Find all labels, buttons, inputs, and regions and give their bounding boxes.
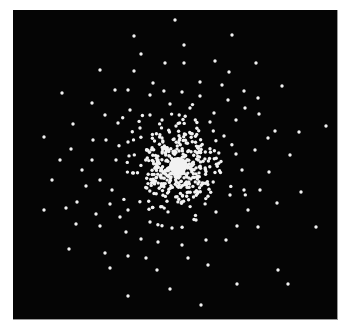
point — [152, 148, 155, 151]
point — [145, 177, 148, 180]
point — [235, 224, 238, 227]
point — [198, 94, 201, 97]
point — [151, 206, 154, 209]
point — [188, 205, 191, 208]
point — [151, 81, 154, 84]
point — [170, 226, 173, 229]
point — [191, 185, 194, 188]
point — [153, 139, 156, 142]
point — [58, 158, 61, 161]
point — [187, 176, 190, 179]
point — [180, 200, 183, 203]
point — [212, 180, 215, 183]
point — [173, 18, 176, 21]
point — [138, 126, 141, 129]
point — [163, 177, 166, 180]
point — [209, 151, 212, 154]
point — [181, 194, 184, 197]
point — [186, 256, 189, 259]
point — [148, 189, 151, 192]
point — [191, 103, 194, 106]
point — [126, 254, 129, 257]
point — [198, 80, 201, 83]
point — [185, 141, 188, 144]
point — [204, 197, 207, 200]
point — [147, 208, 150, 211]
point — [75, 200, 78, 203]
point — [74, 222, 77, 225]
point — [183, 122, 186, 125]
point — [155, 176, 158, 179]
point — [156, 155, 159, 158]
point — [206, 263, 209, 266]
point — [212, 129, 215, 132]
point — [178, 139, 181, 142]
point — [230, 33, 233, 36]
point — [116, 121, 119, 124]
point — [42, 135, 45, 138]
point — [208, 120, 211, 123]
point — [220, 83, 223, 86]
point — [235, 282, 238, 285]
point — [297, 130, 300, 133]
point — [209, 191, 212, 194]
point — [244, 193, 247, 196]
point — [80, 168, 83, 171]
point — [187, 159, 190, 162]
point — [174, 175, 177, 178]
point — [145, 148, 148, 151]
point — [60, 91, 63, 94]
point — [98, 224, 101, 227]
point — [176, 200, 179, 203]
point — [131, 171, 134, 174]
point — [170, 112, 173, 115]
point — [324, 124, 327, 127]
point — [234, 152, 237, 155]
point — [133, 153, 136, 156]
point — [273, 129, 276, 132]
point — [158, 122, 161, 125]
point — [182, 61, 185, 64]
point — [179, 143, 182, 146]
point — [190, 136, 193, 139]
point — [155, 169, 158, 172]
point — [195, 144, 198, 147]
point — [185, 195, 188, 198]
point — [91, 138, 94, 141]
point — [181, 147, 184, 150]
point — [146, 156, 149, 159]
point — [124, 230, 127, 233]
point — [126, 88, 129, 91]
point — [218, 169, 221, 172]
point — [114, 158, 117, 161]
point — [208, 157, 211, 160]
point — [213, 149, 216, 152]
point — [214, 139, 217, 142]
point — [204, 150, 207, 153]
point — [299, 190, 302, 193]
point — [194, 150, 197, 153]
point — [151, 133, 154, 136]
point — [152, 173, 155, 176]
point — [256, 225, 259, 228]
point — [151, 137, 154, 140]
point — [150, 169, 153, 172]
point — [208, 165, 211, 168]
point — [152, 192, 155, 195]
point — [229, 185, 232, 188]
point — [226, 98, 229, 101]
point-cloud — [13, 10, 337, 319]
point — [182, 43, 185, 46]
point — [253, 148, 256, 151]
point — [147, 200, 150, 203]
point — [184, 154, 187, 157]
point — [94, 212, 97, 215]
point — [156, 158, 159, 161]
point — [222, 134, 225, 137]
point — [219, 160, 222, 163]
point — [192, 154, 195, 157]
point — [197, 171, 200, 174]
point — [151, 159, 154, 162]
point — [196, 174, 199, 177]
point — [164, 195, 167, 198]
